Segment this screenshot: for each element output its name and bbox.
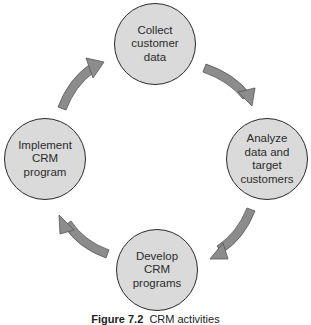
arrow-develop-to-implement-icon: [59, 215, 109, 258]
arrow-analyze-to-develop-icon: [210, 208, 255, 259]
arrow-implement-to-collect-icon: [58, 58, 104, 110]
figure-caption: Figure 7.2 CRM activities: [0, 313, 311, 325]
node-collect-customer-data: Collect customer data: [114, 3, 196, 85]
figure-caption-text: CRM activities: [149, 313, 219, 325]
node-analyze-data-target-customers: Analyze data and target customers: [226, 118, 308, 200]
node-label: Develop CRM programs: [133, 250, 182, 291]
node-label: Collect customer data: [131, 24, 178, 65]
arrow-collect-to-analyze-icon: [203, 64, 255, 106]
node-label: Implement CRM program: [18, 139, 72, 180]
figure-number: Figure 7.2: [91, 313, 143, 325]
node-label: Analyze data and target customers: [240, 132, 293, 186]
node-implement-crm-program: Implement CRM program: [4, 118, 86, 200]
node-develop-crm-programs: Develop CRM programs: [116, 229, 198, 311]
